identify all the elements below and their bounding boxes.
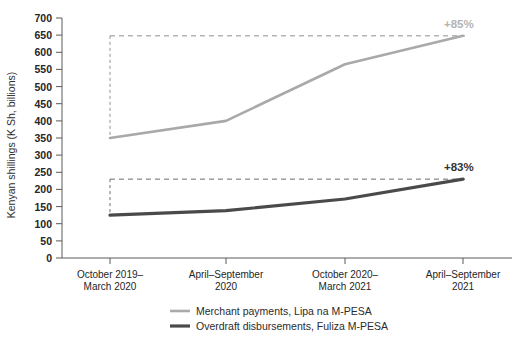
x-tick-label-line2: March 2020: [84, 281, 137, 292]
y-tick-label: 700: [34, 12, 52, 24]
y-axis-ticks: 700 650 600 550 500 450 400 350 300 250 …: [34, 12, 62, 264]
y-tick-300: 300: [34, 149, 62, 161]
y-tick-500: 500: [34, 81, 62, 93]
y-tick-label: 100: [34, 218, 52, 230]
y-tick-label: 150: [34, 201, 52, 213]
y-axis-title: Kenyan shillings (K Sh, billions): [5, 72, 17, 219]
x-tick-label-line1: October 2020–: [312, 269, 379, 280]
y-tick-label: 450: [34, 98, 52, 110]
y-tick-700: 700: [34, 12, 62, 24]
x-tick-label-group-3: October 2020– March 2021: [312, 269, 379, 292]
y-tick-label: 200: [34, 183, 52, 195]
series-line-merchant-payments: [110, 36, 463, 138]
data-series: [110, 36, 463, 215]
line-chart-canvas: Kenyan shillings (K Sh, billions) 700 65…: [0, 0, 518, 343]
chart-legend: Merchant payments, Lipa na M-PESA Overdr…: [170, 305, 388, 332]
series-line-overdraft-disbursements: [110, 179, 463, 215]
x-tick-label-group-4: April–September 2021: [426, 269, 501, 292]
y-tick-650: 650: [34, 29, 62, 41]
growth-annotation-merchant: +85%: [444, 18, 474, 30]
y-tick-50: 50: [40, 235, 62, 247]
x-tick-label-line2: 2020: [215, 281, 238, 292]
x-tick-label-group-1: October 2019– March 2020: [77, 269, 144, 292]
growth-annotation-overdraft: +83%: [444, 161, 474, 173]
y-tick-label: 650: [34, 29, 52, 41]
y-tick-200: 200: [34, 183, 62, 195]
y-tick-label: 600: [34, 46, 52, 58]
y-tick-450: 450: [34, 98, 62, 110]
y-tick-label: 300: [34, 149, 52, 161]
x-tick-label-line1: April–September: [426, 269, 501, 280]
legend-item-overdraft-disbursements[interactable]: Overdraft disbursements, Fuliza M-PESA: [170, 320, 388, 332]
y-tick-0: 0: [46, 252, 62, 264]
y-tick-label: 250: [34, 166, 52, 178]
y-tick-550: 550: [34, 63, 62, 75]
x-axis-tick-labels: October 2019– March 2020 April–September…: [77, 269, 501, 292]
x-tick-label-line2: 2021: [452, 281, 475, 292]
annotations: +85% +83%: [444, 18, 474, 173]
y-tick-label: 50: [40, 235, 52, 247]
x-tick-label-line2: March 2021: [319, 281, 372, 292]
x-axis-ticks: [110, 258, 463, 264]
legend-item-label: Overdraft disbursements, Fuliza M-PESA: [196, 320, 388, 332]
y-tick-label: 350: [34, 132, 52, 144]
y-tick-400: 400: [34, 115, 62, 127]
x-tick-label-line1: October 2019–: [77, 269, 144, 280]
y-tick-label: 0: [46, 252, 52, 264]
chart-figure: Kenyan shillings (K Sh, billions) 700 65…: [0, 0, 518, 343]
legend-item-merchant-payments[interactable]: Merchant payments, Lipa na M-PESA: [170, 305, 372, 317]
y-tick-label: 550: [34, 63, 52, 75]
y-tick-250: 250: [34, 166, 62, 178]
y-tick-350: 350: [34, 132, 62, 144]
y-tick-label: 400: [34, 115, 52, 127]
y-tick-600: 600: [34, 46, 62, 58]
y-tick-100: 100: [34, 218, 62, 230]
x-tick-label-group-2: April–September 2020: [189, 269, 264, 292]
y-tick-150: 150: [34, 201, 62, 213]
legend-item-label: Merchant payments, Lipa na M-PESA: [196, 305, 372, 317]
x-tick-label-line1: April–September: [189, 269, 264, 280]
y-tick-label: 500: [34, 81, 52, 93]
